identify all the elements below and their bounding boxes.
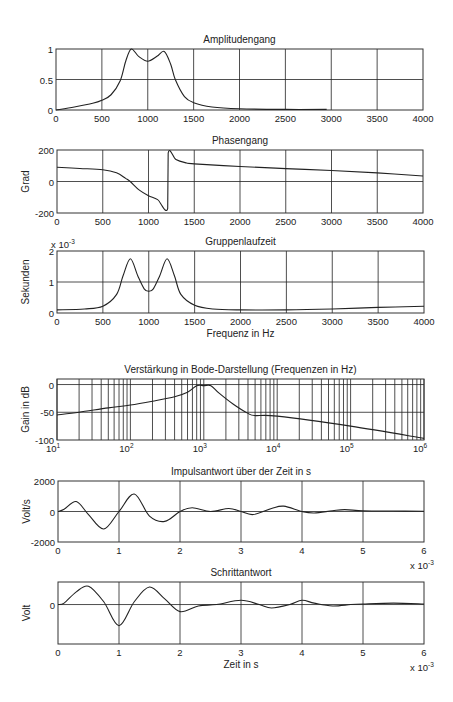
y-tick-label: 0	[49, 380, 54, 391]
x-tick-label: 4000	[412, 216, 433, 227]
x-tick-label: 2000	[229, 113, 250, 124]
x-tick-label: 1000	[138, 216, 159, 227]
chart-title: Phasengang	[212, 135, 268, 146]
x-tick-label: 0	[55, 647, 60, 658]
y-tick-label: -100	[35, 435, 54, 446]
x-tick-label: 3	[238, 545, 243, 556]
y-tick-label: 0	[49, 308, 54, 319]
scale-multiplier: x 10-3	[410, 559, 434, 571]
x-tick-label: 4000	[413, 316, 434, 327]
x-tick-label: 3500	[367, 113, 388, 124]
group-delay-chart: Gruppenlaufzeit0500100015002000250030003…	[20, 236, 435, 339]
x-tick-label: 500	[95, 216, 111, 227]
x-tick-label: 500	[94, 113, 110, 124]
x-tick-label: 1	[116, 647, 121, 658]
x-tick-label: 105	[339, 442, 354, 454]
x-tick-label: 3000	[322, 316, 343, 327]
x-tick-label: 5	[360, 545, 365, 556]
y-tick-label: -200	[35, 208, 54, 219]
bode-chart: Verstärkung in Bode-Darstellung (Frequen…	[20, 364, 427, 454]
x-tick-label: 104	[266, 442, 281, 454]
x-tick-label: 1500	[184, 316, 205, 327]
y-tick-label: -2000	[31, 537, 55, 548]
x-tick-label: 6	[421, 647, 426, 658]
y-axis-label: Gain in dB	[20, 386, 31, 433]
chart-title: Amplitudengang	[203, 34, 275, 45]
x-tick-label: 1	[116, 545, 121, 556]
x-tick-label: 5	[360, 647, 365, 658]
x-tick-label: 0	[53, 113, 58, 124]
charts-canvas: Amplitudengang05001000150020002500300035…	[0, 0, 453, 702]
x-tick-label: 4000	[412, 113, 433, 124]
x-tick-label: 2500	[275, 113, 296, 124]
x-tick-label: 3000	[321, 113, 342, 124]
x-tick-label: 2500	[276, 316, 297, 327]
x-axis-label: Frequenz in Hz	[207, 328, 275, 339]
x-tick-label: 4	[299, 647, 304, 658]
scale-multiplier: x 10-3	[410, 661, 434, 673]
x-tick-label: 1000	[138, 316, 159, 327]
x-tick-label: 500	[95, 316, 111, 327]
x-tick-label: 2	[177, 545, 182, 556]
chart-title: Gruppenlaufzeit	[205, 236, 276, 247]
y-tick-label: 2000	[34, 476, 55, 487]
x-tick-label: 2500	[275, 216, 296, 227]
x-tick-label: 0	[55, 545, 60, 556]
x-tick-label: 3	[238, 647, 243, 658]
y-tick-label: 1	[48, 44, 53, 55]
x-tick-label: 106	[413, 442, 428, 454]
x-tick-label: 3500	[368, 316, 389, 327]
x-tick-label: 1000	[137, 113, 158, 124]
data-curve	[57, 385, 424, 438]
phase-chart: Phasengang050010001500200025003000350040…	[20, 135, 434, 227]
y-axis-label: Sekunden	[20, 259, 31, 304]
y-axis-label: Grad	[20, 170, 31, 192]
x-tick-label: 0	[54, 316, 59, 327]
x-tick-label: 3000	[321, 216, 342, 227]
chart-title: Schrittantwort	[210, 567, 271, 578]
x-tick-label: 1500	[184, 216, 205, 227]
x-tick-label: 103	[193, 442, 208, 454]
scale-multiplier: x 10-3	[51, 238, 75, 250]
x-tick-label: 1500	[183, 113, 204, 124]
y-tick-label: 1	[49, 277, 54, 288]
y-tick-label: -50	[40, 407, 54, 418]
x-axis-label: Zeit in s	[223, 659, 258, 670]
x-tick-label: 0	[54, 216, 59, 227]
y-tick-label: 0.5	[40, 75, 53, 86]
chart-title: Impulsantwort über der Zeit in s	[171, 466, 311, 477]
amplitude-chart: Amplitudengang05001000150020002500300035…	[40, 34, 434, 124]
y-axis-label: Volt/s	[21, 499, 32, 523]
x-tick-label: 2	[177, 647, 182, 658]
y-tick-label: 0	[48, 105, 53, 116]
y-tick-label: 0	[49, 177, 54, 188]
x-tick-label: 2000	[229, 216, 250, 227]
x-tick-label: 102	[119, 442, 134, 454]
x-tick-label: 2000	[230, 316, 251, 327]
y-tick-label: 0	[50, 600, 55, 611]
impulse-response-chart: Impulsantwort über der Zeit in s0123456-…	[21, 466, 434, 571]
x-tick-label: 6	[421, 545, 426, 556]
x-tick-label: 4	[299, 545, 304, 556]
step-response-chart: Schrittantwort01234560VoltZeit in sx 10-…	[21, 567, 434, 673]
y-tick-label: 200	[38, 145, 54, 156]
chart-title: Verstärkung in Bode-Darstellung (Frequen…	[124, 364, 356, 375]
y-axis-label: Volt	[21, 604, 32, 621]
y-tick-label: 0	[50, 507, 55, 518]
x-tick-label: 3500	[367, 216, 388, 227]
